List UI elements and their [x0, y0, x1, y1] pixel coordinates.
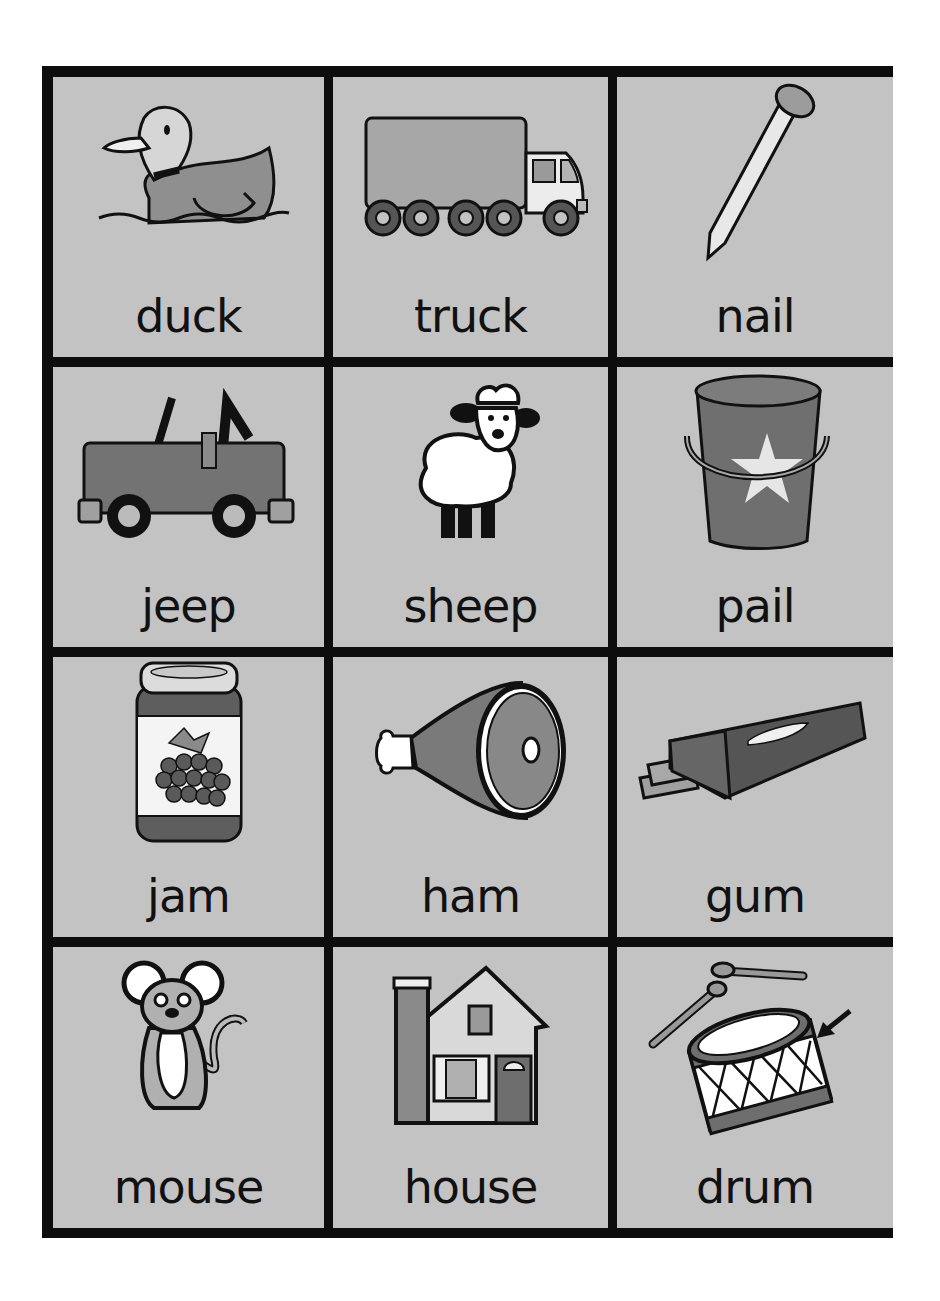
card-jeep: jeep — [53, 367, 324, 647]
card-pail: pail — [617, 367, 893, 647]
card-gum: gum — [617, 657, 893, 937]
mouse-icon — [53, 953, 324, 1133]
card-house: house — [333, 947, 608, 1228]
sheep-icon — [333, 373, 608, 553]
card-word: nail — [617, 293, 893, 339]
card-word: sheep — [333, 583, 608, 629]
nail-icon — [617, 83, 893, 263]
card-word: house — [333, 1164, 608, 1210]
card-sheep: sheep — [333, 367, 608, 647]
card-mouse: mouse — [53, 947, 324, 1228]
ham-icon — [333, 663, 608, 843]
card-ham: ham — [333, 657, 608, 937]
truck-icon — [333, 83, 608, 263]
house-icon — [333, 953, 608, 1133]
card-word: duck — [53, 293, 324, 339]
card-word: truck — [333, 293, 608, 339]
pail-icon — [617, 373, 893, 553]
jam-jar-icon — [53, 663, 324, 843]
card-word: drum — [617, 1164, 893, 1210]
card-duck: duck — [53, 77, 324, 357]
card-nail: nail — [617, 77, 893, 357]
card-truck: truck — [333, 77, 608, 357]
card-word: jeep — [53, 583, 324, 629]
jeep-icon — [53, 373, 324, 553]
rhyming-word-card-grid: duck truck — [42, 66, 893, 1238]
card-word: mouse — [53, 1164, 324, 1210]
card-word: gum — [617, 873, 893, 919]
card-drum: drum — [617, 947, 893, 1228]
drum-icon — [617, 953, 893, 1133]
gum-pack-icon — [617, 663, 893, 843]
card-word: pail — [617, 583, 893, 629]
card-jam: jam — [53, 657, 324, 937]
card-word: ham — [333, 873, 608, 919]
duck-icon — [53, 83, 324, 263]
card-word: jam — [53, 873, 324, 919]
